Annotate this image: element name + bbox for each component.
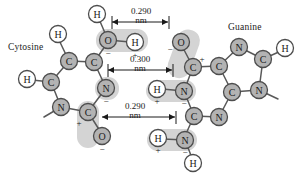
cytosine-label: Cytosine [8, 42, 43, 52]
svg-text:+: + [199, 54, 204, 64]
atom-g-n-lowerright: N [251, 82, 268, 99]
dimension-middle-unit: nm [134, 63, 146, 73]
atom-c-h-top: H [50, 26, 67, 43]
svg-text:H: H [153, 84, 160, 95]
svg-text:C: C [91, 57, 98, 68]
atom-g-c-fused-top: C [211, 58, 228, 75]
svg-text:C: C [229, 87, 236, 98]
atom-g-c-bottom: C [186, 108, 203, 125]
atom-g-c-center: C [224, 84, 241, 101]
atom-c-c-top: C [61, 53, 78, 70]
guanine-label: Guanine [228, 22, 262, 32]
svg-text:N: N [235, 42, 242, 53]
svg-text:C: C [66, 56, 73, 67]
svg-text:H: H [93, 9, 100, 20]
svg-text:N: N [215, 112, 222, 123]
svg-text:C: C [191, 111, 198, 122]
atom-g-n-bottom: N− [177, 132, 194, 158]
svg-text:C: C [85, 107, 92, 118]
dimension-middle: 0.300 nm [118, 55, 162, 74]
atom-c-c-left: C [43, 74, 60, 91]
atom-c-h-left: H [19, 71, 36, 88]
atom-c-o-bottom: O− [94, 128, 111, 155]
svg-text:N: N [102, 83, 109, 94]
dimension-top: 0.290 nm [119, 7, 163, 26]
atom-g-h-upperright: H [277, 40, 294, 57]
atom-c-n-bottomleft: N [53, 99, 70, 116]
svg-text:−: − [103, 96, 108, 106]
svg-text:C: C [190, 62, 197, 73]
dimension-bottom-unit: nm [129, 110, 141, 120]
atom-c-h-otop: H [89, 6, 106, 23]
svg-text:H: H [131, 37, 138, 48]
svg-text:−: − [181, 98, 186, 108]
svg-text:N: N [57, 102, 64, 113]
svg-text:H: H [54, 29, 61, 40]
svg-text:H: H [189, 158, 196, 169]
svg-text:N: N [180, 86, 187, 97]
base-pair-diagram: H H H H+ C C N C N− C+ O− O− O− C+ N− H+… [0, 0, 301, 179]
atom-c-n-right: N− [98, 80, 115, 107]
svg-text:O: O [104, 35, 111, 46]
atom-g-n-upper: N [231, 39, 248, 56]
svg-text:H: H [281, 43, 288, 54]
atom-c-c-right: C [86, 54, 103, 71]
atom-g-c-upperright: C [255, 51, 272, 68]
svg-text:C: C [260, 54, 267, 65]
svg-text:O: O [98, 131, 105, 142]
svg-text:−: − [182, 147, 187, 157]
svg-text:−: − [167, 44, 172, 54]
svg-text:+: + [155, 145, 160, 155]
svg-text:C: C [48, 77, 55, 88]
svg-text:H: H [154, 133, 161, 144]
svg-text:−: − [105, 48, 110, 58]
svg-text:H: H [23, 74, 30, 85]
dimension-bottom: 0.290 nm [113, 102, 157, 121]
svg-text:C: C [216, 61, 223, 72]
dimension-top-unit: nm [135, 15, 147, 25]
atom-g-h-bottom: H [185, 155, 202, 172]
atom-g-h-bottomleft: H+ [150, 130, 167, 156]
svg-text:N: N [181, 135, 188, 146]
atom-g-n-ring: N [211, 109, 228, 126]
svg-text:−: − [99, 144, 104, 154]
svg-text:O: O [177, 37, 184, 48]
svg-text:N: N [255, 85, 262, 96]
svg-text:+: + [76, 118, 81, 128]
atom-c-o-top: O− [100, 32, 117, 59]
